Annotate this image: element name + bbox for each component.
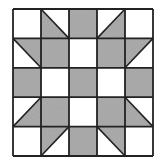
quilt-cell [69,9,97,38]
quilt-cell [41,97,69,126]
quilt-cells [13,9,153,156]
quilt-cell [13,68,41,97]
quilt-cell [41,38,69,67]
quilt-cell [97,97,125,126]
quilt-cell [69,68,97,97]
quilt-cell [69,127,97,156]
quilt-block-diagram [0,0,160,166]
quilt-cell [97,38,125,67]
quilt-cell [125,68,153,97]
